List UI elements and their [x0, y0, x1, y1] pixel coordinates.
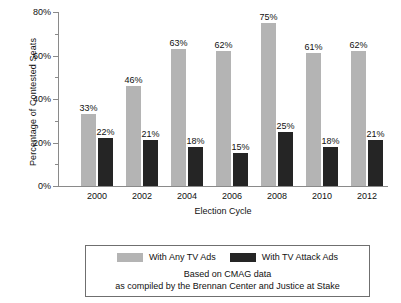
y-tick-label: 80% [33, 7, 51, 17]
bar-any-tv-ads-2012[interactable]: 62% [351, 51, 366, 186]
x-axis-line [58, 186, 388, 187]
y-tick-label: 40% [33, 94, 51, 104]
bar-attack-ads-2012[interactable]: 21% [368, 140, 383, 186]
plot-area: 0% 20% 40% 60% 80% 33% 22% [58, 12, 388, 187]
bar-attack-ads-2004[interactable]: 18% [188, 147, 203, 186]
bar-value-label: 62% [214, 40, 232, 50]
legend-label-any-tv-ads: With Any TV Ads [149, 252, 216, 262]
bar-value-label: 75% [259, 12, 277, 22]
bar-value-label: 33% [79, 103, 97, 113]
bar-any-tv-ads-2010[interactable]: 61% [306, 53, 321, 186]
legend-swatch-icon-attack-ads [230, 253, 256, 262]
y-minor-tick-10 [55, 164, 58, 165]
bar-chart-figure: Percentage of Contested Seats 0% 20% 40%… [0, 0, 401, 303]
bar-attack-ads-2006[interactable]: 15% [233, 153, 248, 186]
bar-value-label: 21% [366, 129, 384, 139]
x-tick-label-2006: 2006 [222, 191, 242, 201]
x-tick-label-2002: 2002 [132, 191, 152, 201]
legend-swatch-icon-any-tv-ads [117, 253, 143, 262]
bar-any-tv-ads-2000[interactable]: 33% [81, 114, 96, 186]
bar-value-label: 61% [304, 42, 322, 52]
x-tick-label-2010: 2010 [312, 191, 332, 201]
y-minor-tick-70 [55, 34, 58, 35]
x-tick-label-2000: 2000 [87, 191, 107, 201]
y-tick-mark [53, 56, 58, 57]
legend-entry-attack-ads[interactable]: With TV Attack Ads [230, 252, 338, 262]
chart-legend: With Any TV Ads With TV Attack Ads Based… [85, 245, 370, 297]
bar-any-tv-ads-2002[interactable]: 46% [126, 86, 141, 186]
legend-series-row: With Any TV Ads With TV Attack Ads [86, 252, 369, 262]
legend-caption: Based on CMAG data as compiled by the Br… [86, 268, 369, 292]
bar-value-label: 18% [321, 136, 339, 146]
bar-value-label: 18% [186, 136, 204, 146]
y-tick-mark [53, 12, 58, 13]
bar-attack-ads-2002[interactable]: 21% [143, 140, 158, 186]
bar-value-label: 25% [276, 121, 294, 131]
y-tick-mark [53, 143, 58, 144]
bar-attack-ads-2000[interactable]: 22% [98, 138, 113, 186]
legend-label-attack-ads: With TV Attack Ads [262, 252, 338, 262]
bar-any-tv-ads-2004[interactable]: 63% [171, 49, 186, 186]
legend-caption-line-1: Based on CMAG data [86, 268, 369, 280]
legend-entry-any-tv-ads[interactable]: With Any TV Ads [117, 252, 216, 262]
y-minor-tick-30 [55, 121, 58, 122]
x-axis-title: Election Cycle [58, 206, 388, 216]
bar-value-label: 62% [349, 40, 367, 50]
bar-attack-ads-2008[interactable]: 25% [278, 132, 293, 186]
bar-value-label: 21% [141, 129, 159, 139]
y-minor-tick-50 [55, 77, 58, 78]
x-tick-label-2008: 2008 [267, 191, 287, 201]
bar-attack-ads-2010[interactable]: 18% [323, 147, 338, 186]
bar-any-tv-ads-2006[interactable]: 62% [216, 51, 231, 186]
bar-value-label: 15% [231, 142, 249, 152]
y-tick-label: 0% [38, 181, 51, 191]
y-tick-mark [53, 186, 58, 187]
y-tick-mark [53, 99, 58, 100]
bar-any-tv-ads-2008[interactable]: 75% [261, 23, 276, 186]
legend-caption-line-2: as compiled by the Brennan Center and Ju… [86, 280, 369, 292]
bar-value-label: 63% [169, 38, 187, 48]
y-tick-label: 20% [33, 138, 51, 148]
y-axis-line [58, 12, 59, 187]
x-tick-label-2004: 2004 [177, 191, 197, 201]
bar-value-label: 46% [124, 75, 142, 85]
bar-value-label: 22% [96, 127, 114, 137]
x-tick-label-2012: 2012 [357, 191, 377, 201]
y-tick-label: 60% [33, 51, 51, 61]
